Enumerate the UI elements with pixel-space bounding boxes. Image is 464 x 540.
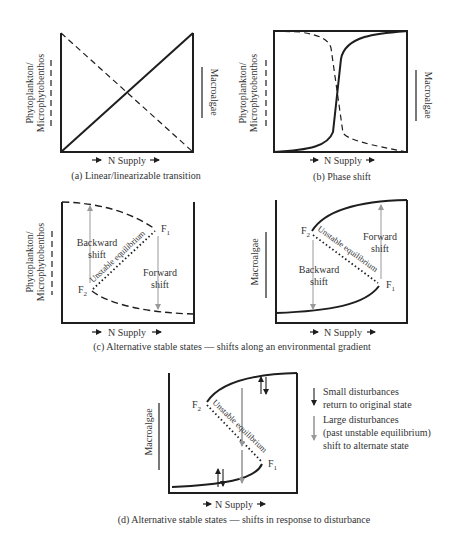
macroalgae-curve	[274, 31, 407, 152]
panel-a: Phytoplankton/ Microphytobenthos Macroal…	[24, 33, 220, 182]
upper-stable-branch	[62, 202, 155, 229]
x-axis-label: N Supply	[92, 327, 161, 338]
panel-b: Phytoplankton/ Microphytobenthos Macroal…	[237, 31, 434, 183]
caption-b: (b) Phase shift	[313, 171, 371, 183]
svg-text:N Supply: N Supply	[108, 155, 146, 166]
y-label-right: Macroalgae	[209, 68, 220, 116]
backward-label-2: shift	[88, 249, 106, 260]
caption-d: (d) Alternative stable states — shifts i…	[118, 514, 371, 526]
forward-label-2: shift	[371, 243, 389, 254]
y-label-left-1: Phytoplankton/	[24, 62, 35, 123]
f2-label: F2	[192, 399, 202, 413]
f1-label: F1	[268, 458, 278, 472]
forward-label-1: Forward	[143, 267, 177, 278]
panel-c-left: Backward shift Forward shift Unstable eq…	[24, 202, 194, 338]
y-label: Macroalgae	[143, 408, 154, 456]
axes-box	[276, 200, 407, 323]
svg-text:N Supply: N Supply	[324, 327, 362, 338]
lower-stable-branch	[92, 291, 194, 314]
svg-text:N Supply: N Supply	[108, 327, 146, 338]
y-label-2: Microphytobenthos	[35, 223, 46, 301]
f1-label: F1	[386, 279, 396, 293]
upper-stable-branch	[207, 373, 297, 402]
caption-c: (c) Alternative stable states — shifts a…	[93, 341, 371, 353]
legend-small-1: Small disturbances	[323, 386, 399, 397]
y-label-1: Phytoplankton/	[24, 231, 35, 292]
panel-d: Unstable equilibrium F2 F1 Macroalgae N …	[118, 373, 431, 526]
forward-label-2: shift	[151, 279, 169, 290]
axes-box	[62, 202, 194, 323]
legend-small-2: return to original state	[323, 399, 412, 410]
axes-box	[169, 373, 297, 493]
f1-label: F1	[161, 223, 171, 237]
figure-canvas: Phytoplankton/ Microphytobenthos Macroal…	[0, 0, 464, 540]
forward-label-1: Forward	[363, 231, 397, 242]
axes-box	[274, 31, 407, 152]
svg-text:N Supply: N Supply	[324, 155, 362, 166]
unstable-label: Unstable equilibrium	[211, 397, 270, 454]
legend: Small disturbances return to original st…	[314, 386, 431, 451]
x-axis-label: N Supply	[310, 155, 374, 166]
x-axis-label: N Supply	[203, 499, 265, 510]
f2-label: F2	[301, 225, 311, 239]
backward-label-1: Backward	[77, 237, 118, 248]
svg-text:N Supply: N Supply	[215, 499, 253, 510]
panel-c-right: Forward shift Backward shift Unstable eq…	[249, 200, 407, 338]
caption-a: (a) Linear/linearizable transition	[71, 170, 200, 182]
y-label-right: Macroalgae	[423, 71, 434, 119]
lower-stable-branch	[276, 286, 379, 313]
phytoplankton-curve	[274, 31, 407, 152]
legend-large-2: (past unstable equilibrium)	[323, 427, 431, 439]
legend-large-1: Large disturbances	[323, 414, 399, 425]
backward-label-2: shift	[310, 276, 328, 287]
x-axis-label: N Supply	[310, 327, 375, 338]
x-axis-label: N Supply	[92, 155, 159, 166]
y-label-left-1: Phytoplankton/	[237, 62, 248, 123]
f2-label: F2	[78, 284, 88, 298]
y-label-left-2: Microphytobenthos	[35, 54, 46, 132]
legend-large-3: shift to alternate state	[323, 440, 409, 451]
y-label-left-2: Microphytobenthos	[248, 54, 259, 132]
lower-stable-branch	[172, 464, 262, 487]
y-label: Macroalgae	[249, 238, 260, 286]
backward-label-1: Backward	[299, 264, 340, 275]
